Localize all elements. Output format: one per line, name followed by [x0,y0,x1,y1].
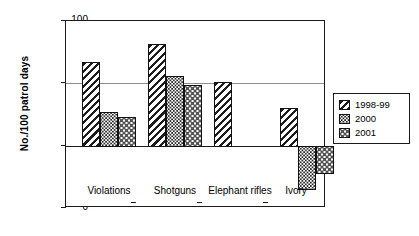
bar-group-layer [66,21,324,206]
legend-swatch-speckle-icon [339,114,350,124]
legend-item-2000: 2000 [339,112,409,126]
bar-shotguns-2001 [184,85,202,147]
legend-label-1998-99: 1998-99 [355,100,390,110]
legend-swatch-hatch-icon [339,100,350,110]
y-tick-mark-0 [61,207,66,208]
y-axis-title: No./100 patrol days [19,34,30,174]
category-label-ivory: Ivory [273,185,319,196]
legend-label-2001: 2001 [355,128,376,138]
bar-ivory-2001 [316,146,334,174]
legend: 1998-99 2000 2001 [333,93,410,144]
chart-container: No./100 patrol days 100 10 1 0 [0,0,419,236]
bar-violations-1998-99 [82,62,100,147]
legend-item-1998-99: 1998-99 [339,98,409,112]
legend-label-2000: 2000 [355,114,376,124]
bar-violations-2001 [118,117,136,147]
bar-ivory-2000 [298,146,316,190]
plot-area: Violations Shotguns Elephant rifles Ivor… [65,20,325,207]
legend-swatch-dots-icon [339,128,350,138]
bar-shotguns-1998-99 [148,44,166,147]
bar-elephant-rifles-1998-99 [214,82,232,147]
category-label-elephant-rifles: Elephant rifles [195,185,285,196]
legend-item-2001: 2001 [339,126,409,140]
bar-violations-2000 [100,112,118,147]
bar-ivory-1998-99 [280,108,298,147]
bar-shotguns-2000 [166,76,184,147]
